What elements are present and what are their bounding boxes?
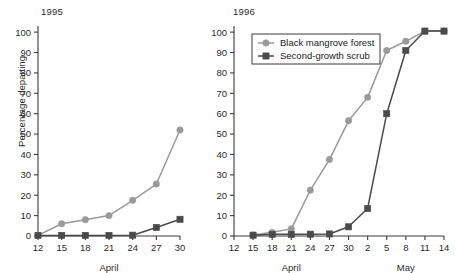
plot-area-1996: 0102030405060708090100121518212427302581… [196, 0, 456, 271]
svg-text:5: 5 [384, 242, 389, 253]
svg-text:30: 30 [343, 242, 354, 253]
svg-text:60: 60 [216, 108, 227, 119]
svg-text:14: 14 [439, 242, 450, 253]
svg-text:21: 21 [104, 242, 115, 253]
svg-text:0: 0 [26, 230, 31, 241]
legend: Black mangrove forestSecond-growth scrub [252, 34, 380, 64]
panel-1996: 1996 01020304050607080901001215182124273… [196, 0, 456, 271]
x-axis-label-right-april: April [251, 262, 331, 273]
svg-text:20: 20 [20, 190, 31, 201]
svg-text:12: 12 [229, 242, 240, 253]
svg-text:70: 70 [216, 88, 227, 99]
svg-text:15: 15 [248, 242, 259, 253]
svg-text:50: 50 [216, 128, 227, 139]
svg-text:24: 24 [305, 242, 316, 253]
svg-text:18: 18 [267, 242, 278, 253]
svg-text:30: 30 [175, 242, 186, 253]
svg-text:27: 27 [324, 242, 335, 253]
panel-title-1995: 1995 [41, 6, 63, 17]
svg-text:20: 20 [216, 190, 227, 201]
svg-text:80: 80 [216, 67, 227, 78]
svg-text:0: 0 [222, 230, 227, 241]
svg-text:12: 12 [33, 242, 44, 253]
plot-area-1995: 010203040506070809010012151821242730 [0, 0, 200, 271]
svg-text:90: 90 [216, 47, 227, 58]
x-axis-label-right-may: May [366, 262, 446, 273]
x-axis-label-left-april: April [69, 262, 149, 273]
svg-text:15: 15 [56, 242, 67, 253]
svg-text:30: 30 [216, 169, 227, 180]
svg-text:8: 8 [403, 242, 408, 253]
svg-text:11: 11 [420, 242, 430, 253]
svg-text:2: 2 [365, 242, 370, 253]
svg-text:40: 40 [216, 149, 227, 160]
legend-item-label: Black mangrove forest [280, 37, 375, 48]
svg-text:18: 18 [80, 242, 91, 253]
svg-text:100: 100 [211, 27, 227, 38]
legend-item-label: Second-growth scrub [280, 50, 370, 61]
y-axis-label-left: Percentage departing [16, 32, 27, 172]
svg-text:10: 10 [216, 210, 227, 221]
svg-text:27: 27 [151, 242, 162, 253]
panel-title-1996: 1996 [233, 6, 255, 17]
panel-1995: 1995 Percentage departing 01020304050607… [0, 0, 200, 271]
svg-text:10: 10 [20, 210, 31, 221]
svg-text:24: 24 [127, 242, 138, 253]
svg-text:21: 21 [286, 242, 297, 253]
